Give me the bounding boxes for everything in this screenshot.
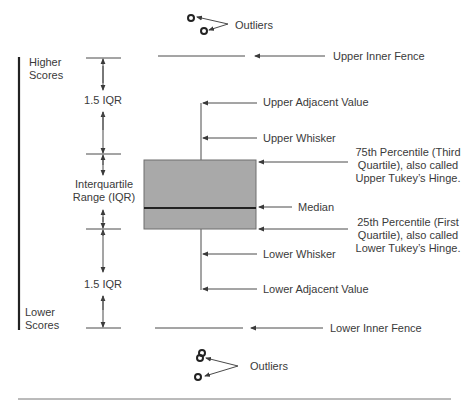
q3-label-line3: Upper Tukey’s Hinge. <box>350 172 465 185</box>
lower-inner-fence-label: Lower Inner Fence <box>330 322 422 335</box>
lower-adjacent-value-label: Lower Adjacent Value <box>263 283 369 296</box>
higher-scores-label: Higher Scores <box>29 56 63 82</box>
lower-15iqr-label: 1.5 IQR <box>83 278 123 291</box>
q1-label-line3: Lower Tukey’s Hinge. <box>350 242 465 255</box>
iqr-label-line2: Range (IQR) <box>70 191 138 204</box>
higher-label: Higher <box>29 56 63 69</box>
q1-label: 25th Percentile (First Quartile), also c… <box>350 216 465 255</box>
iqr-label-line1: Interquartile <box>70 178 138 191</box>
upper-inner-fence-label: Upper Inner Fence <box>333 50 425 63</box>
outliers-top-label: Outliers <box>235 19 273 32</box>
q3-label: 75th Percentile (Third Quartile), also c… <box>350 146 465 185</box>
q1-label-line1: 25th Percentile (First <box>350 216 465 229</box>
upper-adjacent-value-label: Upper Adjacent Value <box>263 96 369 109</box>
scores-label: Scores <box>29 69 63 82</box>
lower-label: Lower <box>25 306 59 319</box>
iqr-label: Interquartile Range (IQR) <box>70 178 138 204</box>
q3-label-line1: 75th Percentile (Third <box>350 146 465 159</box>
outliers-bottom-label: Outliers <box>250 360 288 373</box>
iqr-box <box>144 160 256 229</box>
median-label: Median <box>298 201 334 214</box>
scores-label: Scores <box>25 319 59 332</box>
upper-whisker-label: Upper Whisker <box>263 132 336 145</box>
outliers-lower <box>195 350 205 380</box>
upper-15iqr-label: 1.5 IQR <box>83 94 123 107</box>
q1-label-line2: Quartile), also called <box>350 229 465 242</box>
outliers-upper <box>188 15 207 34</box>
lower-scores-label: Lower Scores <box>25 306 59 332</box>
lower-whisker-label: Lower Whisker <box>263 248 336 261</box>
q3-label-line2: Quartile), also called <box>350 159 465 172</box>
